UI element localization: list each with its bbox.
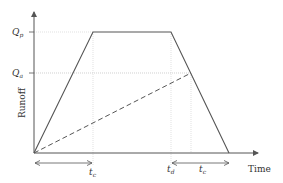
td-label: td [167, 164, 175, 175]
tc-second-label: tc [199, 164, 207, 175]
qa-label: Qa [12, 68, 23, 79]
accumulation-line [34, 73, 191, 153]
x-axis-label: Time [248, 164, 271, 174]
qp-label: Qp [12, 27, 23, 39]
hydrograph-diagram: Qp Qa Runoff Time tc td tc [0, 0, 283, 183]
trapezoidal-hydrograph [34, 32, 229, 153]
tc-label: tc [89, 167, 97, 178]
y-axis-label: Runoff [17, 87, 27, 118]
